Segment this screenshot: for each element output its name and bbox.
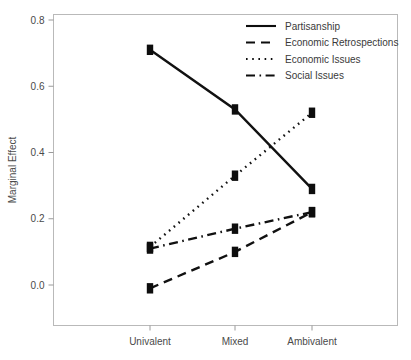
data-point-marker (147, 243, 153, 253)
data-point-marker (309, 184, 315, 194)
data-point-marker (147, 45, 153, 55)
series-social-issues (147, 207, 315, 254)
y-axis-ticks: 0.00.20.40.60.8 (31, 15, 54, 291)
y-axis-title: Marginal Effect (7, 137, 18, 204)
legend-label-partisanship: Partisanship (285, 21, 340, 32)
legend-label-economic-retrospections: Economic Retrospections (285, 37, 398, 48)
chart-legend: PartisanshipEconomic RetrospectionsEcono… (246, 21, 398, 82)
y-tick-label: 0.2 (31, 213, 45, 224)
series-partisanship (147, 45, 315, 195)
data-point-marker (232, 247, 238, 257)
series-line (150, 212, 312, 249)
data-point-marker (309, 207, 315, 217)
legend-label-economic-issues: Economic Issues (285, 54, 361, 65)
x-category-label-mixed: Mixed (222, 336, 249, 347)
y-tick-label: 0.0 (31, 280, 45, 291)
data-point-marker (309, 108, 315, 118)
series-line (150, 113, 312, 247)
data-point-marker (232, 104, 238, 114)
data-point-marker (232, 223, 238, 233)
series-economic-retrospections (147, 207, 315, 294)
chart-container: 0.00.20.40.60.8 Marginal Effect Univalen… (0, 0, 411, 360)
data-point-marker (232, 170, 238, 180)
data-point-marker (147, 283, 153, 293)
x-axis-ticks: UnivalentMixedAmbivalent (129, 326, 337, 347)
x-category-label-univalent: Univalent (129, 336, 171, 347)
y-tick-label: 0.6 (31, 81, 45, 92)
series-group (147, 45, 315, 294)
y-tick-label: 0.4 (31, 147, 45, 158)
marginal-effect-line-chart: 0.00.20.40.60.8 Marginal Effect Univalen… (0, 0, 411, 360)
legend-label-social-issues: Social Issues (285, 70, 344, 81)
series-line (150, 212, 312, 288)
y-tick-label: 0.8 (31, 15, 45, 26)
x-category-label-ambivalent: Ambivalent (287, 336, 337, 347)
